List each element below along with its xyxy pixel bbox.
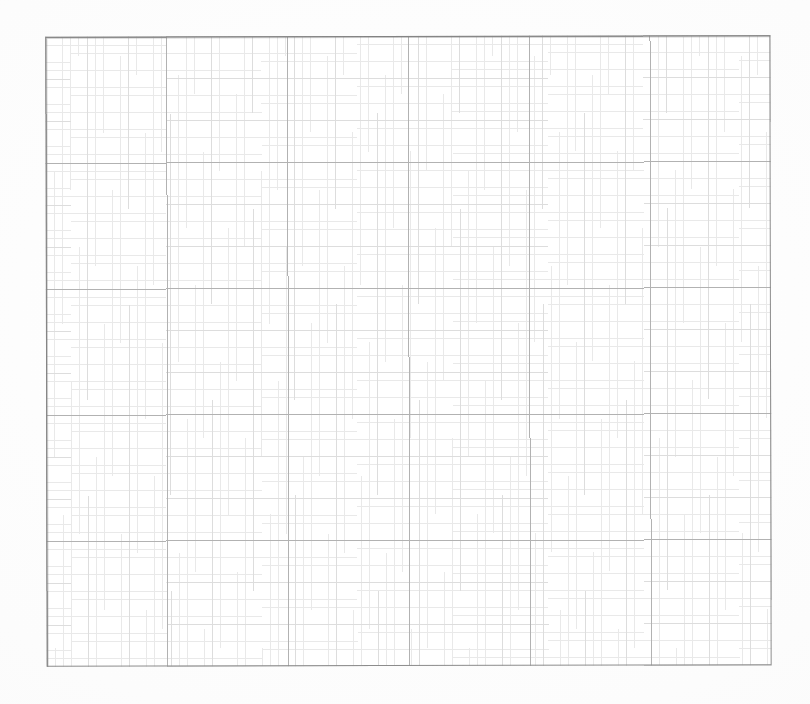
scan-softening-overlay bbox=[45, 35, 771, 667]
grid-plate bbox=[0, 0, 810, 704]
graph-paper-grid bbox=[45, 35, 771, 667]
grid-minor-lines bbox=[45, 35, 771, 667]
grid-border-shadow bbox=[45, 35, 771, 667]
grid-border bbox=[45, 35, 771, 667]
grid-major-lines bbox=[45, 35, 771, 667]
grid-medium-lines bbox=[45, 35, 771, 667]
scan-sheet bbox=[0, 0, 810, 704]
